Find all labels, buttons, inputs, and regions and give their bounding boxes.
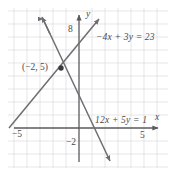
y-tick-label-8: 8 [68,25,73,35]
line-upper-equation [9,19,99,128]
x-axis-name: x [155,113,159,123]
x-tick-label-5: 5 [140,131,145,141]
y-tick-label-neg2: −2 [66,138,76,148]
equation-label-lower: 12x + 5y = 1 [95,116,147,126]
graph-canvas [0,0,171,171]
line-lower-arrow-top [42,17,50,34]
intersection-point [58,65,63,70]
y-axis-name: y [86,10,90,20]
equation-label-upper: −4x + 3y = 23 [96,33,155,43]
x-tick-label-neg5: −5 [12,130,22,140]
intersection-point-label: (−2, 5) [22,63,48,73]
coordinate-graph-figure: −4x + 3y = 23 12x + 5y = 1 (−2, 5) 8 −2 … [0,0,171,171]
